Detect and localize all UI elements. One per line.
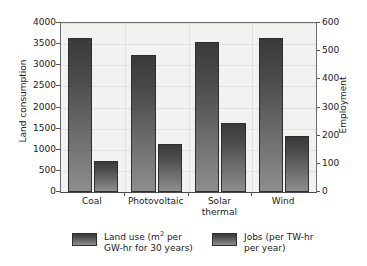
legend-entry-jobs: Jobs (per TW-hrper year) — [212, 232, 313, 254]
chart-figure: Land consumption Employment 050010001500… — [0, 0, 367, 266]
category-separator — [125, 23, 126, 192]
legend-label-land-use: Land use (m2 perGW-hr for 30 years) — [104, 232, 193, 254]
bar-land-use — [131, 55, 155, 192]
bar-land-use — [68, 38, 92, 192]
category-separator — [189, 23, 190, 192]
x-tick-mark — [188, 192, 189, 196]
y-tick-label-right: 200 — [322, 131, 356, 140]
bar-jobs — [221, 123, 245, 192]
bar-jobs — [285, 136, 309, 192]
y-tick-label-left: 1500 — [22, 124, 56, 133]
y-axis-right-ticks: 0100200300400500600 — [316, 0, 350, 266]
y-tick-label-left: 0 — [22, 187, 56, 196]
x-axis-label-photovoltaic: Photovoltaic — [124, 196, 188, 207]
y-tick-label-left: 500 — [22, 166, 56, 175]
y-tick-label-right: 100 — [322, 159, 356, 168]
legend-swatch-land-use — [72, 233, 97, 246]
bar-land-use — [195, 42, 219, 192]
y-tick-label-left: 2000 — [22, 103, 56, 112]
y-tick-label-left: 3500 — [22, 39, 56, 48]
y-tick-label-left: 4000 — [22, 18, 56, 27]
y-tick-label-right: 400 — [322, 74, 356, 83]
plot-area — [60, 22, 317, 193]
x-axis-label-solar-thermal: Solar thermal — [188, 196, 252, 218]
y-tick-label-right: 0 — [322, 187, 356, 196]
legend-label-jobs: Jobs (per TW-hrper year) — [244, 232, 313, 254]
y-tick-label-left: 1000 — [22, 145, 56, 154]
x-axis-label-coal: Coal — [60, 196, 124, 207]
legend-swatch-jobs — [212, 233, 237, 246]
y-tick-label-right: 300 — [322, 103, 356, 112]
legend-entry-land-use: Land use (m2 perGW-hr for 30 years) — [72, 232, 193, 254]
bar-jobs — [94, 161, 118, 192]
chart-legend: Land use (m2 perGW-hr for 30 years) Jobs… — [0, 228, 367, 266]
y-tick-label-right: 600 — [322, 18, 356, 27]
category-separator — [252, 23, 253, 192]
x-axis-label-wind: Wind — [251, 196, 315, 207]
bar-land-use — [259, 38, 283, 192]
y-tick-label-left: 2500 — [22, 81, 56, 90]
y-tick-label-right: 500 — [322, 46, 356, 55]
bar-jobs — [158, 144, 182, 192]
x-tick-mark — [124, 192, 125, 196]
x-tick-mark — [251, 192, 252, 196]
y-tick-label-left: 3000 — [22, 60, 56, 69]
y-axis-left-ticks: 05001000150020002500300035004000 — [22, 0, 56, 266]
